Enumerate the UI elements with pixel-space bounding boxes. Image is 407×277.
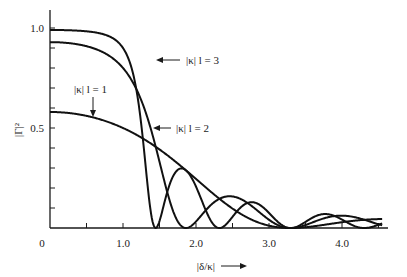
- annotation-kl2: |κ| l = 2: [176, 122, 209, 134]
- annotation-kl1: |κ| l = 1: [74, 83, 107, 95]
- x-axis-arrow-icon: [221, 263, 247, 269]
- y-tick-label-1: 1.0: [30, 22, 44, 34]
- annotation-kl3: |κ| l = 3: [186, 54, 219, 66]
- x-tick-label-3: 3.0: [262, 237, 276, 249]
- y-axis-title: |Γ|²: [12, 122, 24, 137]
- arrow-kl1-icon: [90, 97, 96, 117]
- y-tick-label-05: 0.5: [30, 122, 44, 134]
- x-tick-label-4: 4.0: [335, 237, 349, 249]
- arrow-kl3-icon: [156, 57, 180, 63]
- origin-label: 0: [39, 237, 45, 249]
- x-axis-title: |δ/κ|: [197, 260, 215, 272]
- arrow-kl2-icon: [153, 125, 171, 131]
- x-tick-label-2: 2.0: [189, 237, 203, 249]
- curve-kl2: [50, 42, 382, 228]
- curve-kl1: [50, 112, 382, 228]
- x-tick-label-1: 1.0: [116, 237, 130, 249]
- reflectivity-chart: 0 1.0 2.0 3.0 4.0 1.0 0.5 |Γ|² |δ/κ| |κ|…: [0, 0, 407, 277]
